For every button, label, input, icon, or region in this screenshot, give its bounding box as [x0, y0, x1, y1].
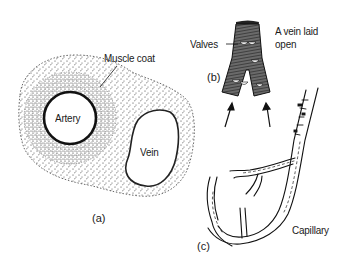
flow-arrow-up-icon	[225, 103, 234, 127]
panel-tag-a: (a)	[92, 212, 105, 224]
label-vein-laid-open-line2: open	[275, 38, 296, 50]
flow-arrow-up-icon	[263, 103, 270, 127]
vein-trunk	[222, 24, 270, 96]
panel-b-artwork	[222, 21, 270, 128]
panel-tag-c: (c)	[197, 240, 210, 252]
figure-stage: Muscle coat Artery Vein (a) Valves A vei…	[0, 0, 343, 262]
label-vein-laid-open-line1: A vein laid	[275, 25, 318, 37]
label-muscle-coat: Muscle coat	[104, 52, 155, 64]
panel-tag-b: (b)	[207, 71, 220, 83]
label-valves: Valves	[190, 38, 218, 50]
panel-c-artwork	[207, 88, 318, 246]
label-artery: Artery	[55, 112, 80, 124]
label-capillary: Capillary	[292, 224, 329, 236]
label-vein: Vein	[140, 146, 159, 158]
panel-a-artwork	[19, 55, 195, 196]
vessel-wall-outer	[208, 88, 318, 244]
capillary-branch	[230, 158, 295, 171]
capillary-loop	[207, 177, 232, 246]
